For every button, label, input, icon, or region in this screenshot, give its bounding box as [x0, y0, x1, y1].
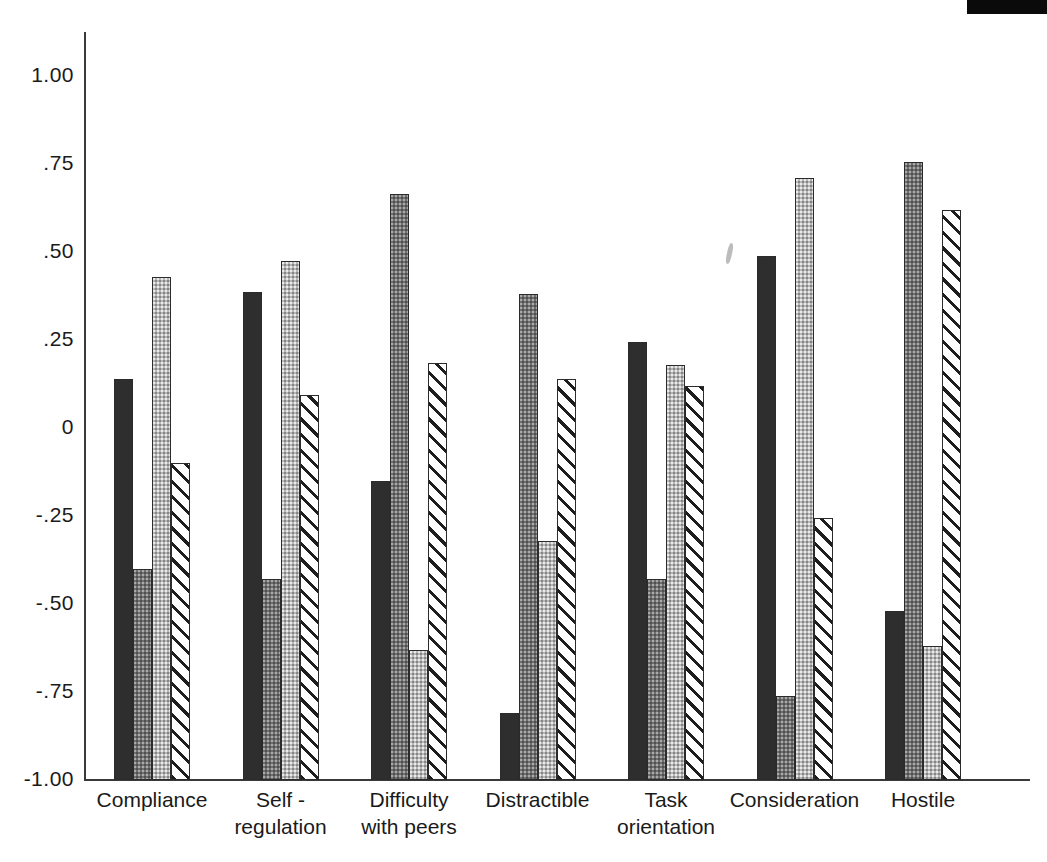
bar	[904, 162, 923, 780]
bar	[171, 463, 190, 780]
y-tick-label: -1.00	[8, 767, 74, 791]
y-tick-label: .25	[8, 327, 74, 351]
bar	[428, 363, 447, 780]
y-tick-label: .75	[8, 151, 74, 175]
bar	[795, 178, 814, 780]
bar	[628, 342, 647, 780]
bar	[647, 579, 666, 780]
bar	[538, 541, 557, 780]
y-tick-label: -.25	[8, 503, 74, 527]
bar	[519, 294, 538, 780]
category-label: Self - regulation	[206, 786, 356, 840]
bar	[114, 379, 133, 780]
bar	[133, 569, 152, 780]
bar	[390, 194, 409, 780]
category-label: Distractible	[463, 786, 613, 813]
y-tick-label: 0	[8, 415, 74, 439]
category-label: Task orientation	[591, 786, 741, 840]
scan-artifact-corner	[967, 0, 1047, 14]
bar	[685, 386, 704, 780]
bar	[814, 518, 833, 780]
bar	[243, 292, 262, 780]
bar	[776, 696, 795, 780]
bar-chart: 1.00.75.50.250-.25-.50-.75-1.00 Complian…	[0, 0, 1047, 862]
bar	[152, 277, 171, 780]
category-label: Consideration	[720, 786, 870, 813]
bar	[262, 579, 281, 780]
bar	[557, 379, 576, 780]
bar	[281, 261, 300, 780]
category-label: Compliance	[77, 786, 227, 813]
bar	[409, 650, 428, 780]
bar	[300, 395, 319, 780]
bar	[757, 256, 776, 780]
bar	[371, 481, 390, 780]
bar	[885, 611, 904, 780]
category-label: Difficulty with peers	[334, 786, 484, 840]
y-tick-label: -.50	[8, 591, 74, 615]
bar	[500, 713, 519, 780]
y-tick-label: -.75	[8, 679, 74, 703]
bar	[923, 646, 942, 780]
scan-artifact-speck	[725, 243, 734, 265]
y-axis-line	[84, 32, 86, 780]
y-tick-label: 1.00	[8, 63, 74, 87]
bar	[666, 365, 685, 780]
category-label: Hostile	[848, 786, 998, 813]
bar	[942, 210, 961, 780]
y-tick-label: .50	[8, 239, 74, 263]
